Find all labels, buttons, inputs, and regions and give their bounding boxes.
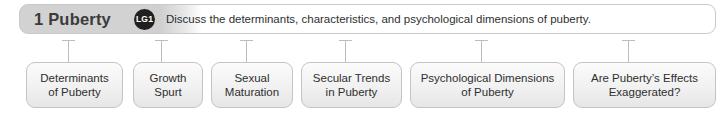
connector-stem-icon xyxy=(161,40,162,62)
topic-box-label-line2: Spurt xyxy=(154,86,182,98)
topic-box-label-line1: Psychological Dimensions xyxy=(421,72,555,84)
topic-box-label-line1: Sexual xyxy=(234,72,269,84)
topic-box-label-line1: Secular Trends xyxy=(313,72,390,84)
connector-stem-icon xyxy=(246,40,247,62)
topic-box-secular-trends-in-puberty[interactable]: Secular Trends in Puberty xyxy=(301,62,402,108)
topic-box-label: Psychological Dimensions of Puberty xyxy=(421,71,555,100)
connector-stem-icon xyxy=(481,40,482,62)
topic-box-determinants-of-puberty[interactable]: Determinants of Puberty xyxy=(26,62,123,108)
topic-box-label-line1: Determinants xyxy=(40,72,108,84)
topic-box-label-line2: Maturation xyxy=(225,86,279,98)
topic-box-label: Determinants of Puberty xyxy=(40,71,108,100)
connector-stem-icon xyxy=(345,40,346,62)
page-title: 1 Puberty xyxy=(34,10,111,29)
topic-box-label-line2: of Puberty xyxy=(461,86,513,98)
topic-box-label-line1: Growth xyxy=(149,72,186,84)
learning-objective-text: Discuss the determinants, characteristic… xyxy=(166,13,591,25)
chapter-header-bar: 1 Puberty LG1 Discuss the determinants, … xyxy=(19,4,716,34)
topic-box-label-line2: of Puberty xyxy=(48,86,100,98)
topic-box-label: Growth Spurt xyxy=(149,71,186,100)
topic-box-growth-spurt[interactable]: Growth Spurt xyxy=(133,62,203,108)
topic-box-sexual-maturation[interactable]: Sexual Maturation xyxy=(211,62,293,108)
topic-box-label: Are Puberty’s Effects Exaggerated? xyxy=(591,71,698,100)
topic-box-label: Secular Trends in Puberty xyxy=(313,71,390,100)
topic-box-label-line1: Are Puberty’s Effects xyxy=(591,72,698,84)
topic-box-label: Sexual Maturation xyxy=(225,71,279,100)
chapter-outline-diagram: 1 Puberty LG1 Discuss the determinants, … xyxy=(0,0,728,114)
topic-box-label-line2: Exaggerated? xyxy=(609,86,681,98)
connector-stem-icon xyxy=(628,40,629,62)
topic-box-psychological-dimensions-of-puberty[interactable]: Psychological Dimensions of Puberty xyxy=(410,62,565,108)
topic-box-are-pubertys-effects-exaggerated[interactable]: Are Puberty’s Effects Exaggerated? xyxy=(573,62,716,108)
learning-goal-badge: LG1 xyxy=(134,9,155,30)
topic-box-label-line2: in Puberty xyxy=(326,86,378,98)
connector-stem-icon xyxy=(68,40,69,62)
